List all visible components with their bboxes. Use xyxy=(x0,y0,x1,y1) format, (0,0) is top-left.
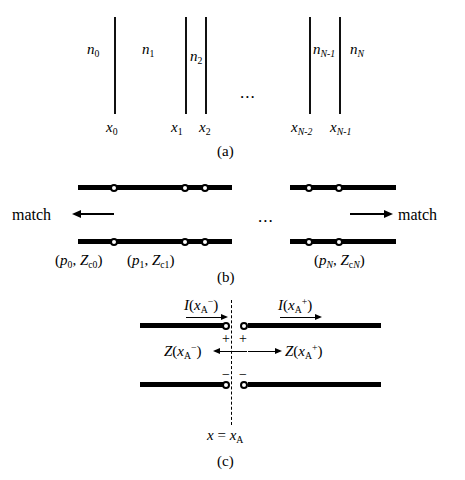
label-current-right: I(xA+) xyxy=(278,298,312,313)
panel-a: n0 n1 n2 nN-1 nN ... x0 x1 x2 xN-2 xN-1 xyxy=(0,0,465,165)
impedance-right-arrowhead xyxy=(275,348,282,354)
current-right-arrowline xyxy=(280,317,318,318)
node-bottom-right-xN-2 xyxy=(305,238,313,246)
interface-line-xN-2 xyxy=(309,17,311,114)
node-bottom-left-x0 xyxy=(110,238,118,246)
label-nN-1: nN-1 xyxy=(313,42,335,57)
panel-c: I(xA−) I(xA+) + + Z(xA−) Z(xA+) − − xyxy=(0,295,465,480)
label-reference-plane: x = xA xyxy=(207,428,243,443)
terminal-node-lower-right xyxy=(240,381,248,389)
conductor-upper-left xyxy=(140,323,225,328)
interface-line-x1 xyxy=(185,17,187,114)
label-nN: nN xyxy=(350,42,364,57)
label-impedance-right: Z(xA+) xyxy=(285,344,323,359)
match-right-arrowline xyxy=(350,213,386,214)
label-x2: x2 xyxy=(199,120,211,135)
match-left-label: match xyxy=(12,207,51,223)
match-right-arrowhead xyxy=(384,210,393,218)
label-n0: n0 xyxy=(87,42,99,57)
node-bottom-left-x2 xyxy=(201,238,209,246)
conductor-lower-right xyxy=(248,382,381,387)
terminal-minus-left: − xyxy=(222,368,230,382)
label-xN-1: xN-1 xyxy=(330,120,351,135)
label-n1: n1 xyxy=(142,42,154,57)
label-impedance-left: Z(xA−) xyxy=(164,344,202,359)
label-x1: x1 xyxy=(171,120,183,135)
terminal-plus-right: + xyxy=(239,332,247,346)
label-p1-zc1: (p1, Zc1) xyxy=(127,253,174,268)
interface-line-x0 xyxy=(114,17,116,114)
panel-b-ellipsis: ... xyxy=(258,207,274,227)
current-right-arrowhead xyxy=(315,314,322,320)
node-top-right-xN-1 xyxy=(335,184,343,192)
panel-b-caption: (b) xyxy=(217,269,235,286)
impedance-left-arrowline xyxy=(219,351,247,352)
node-bottom-left-x1 xyxy=(181,238,189,246)
current-left-arrowhead xyxy=(221,314,228,320)
node-top-right-xN-2 xyxy=(305,184,313,192)
terminal-minus-right: − xyxy=(239,368,247,382)
node-top-left-x2 xyxy=(201,184,209,192)
label-current-left: I(xA−) xyxy=(184,298,218,313)
node-bottom-right-xN-1 xyxy=(335,238,343,246)
label-p0-zc0: (p0, Zc0) xyxy=(55,253,102,268)
terminal-plus-left: + xyxy=(222,332,230,346)
figure-canvas: n0 n1 n2 nN-1 nN ... x0 x1 x2 xN-2 xN-1 xyxy=(0,0,465,480)
label-xN-2: xN-2 xyxy=(291,120,312,135)
terminal-node-lower-left xyxy=(222,381,230,389)
match-right-label: match xyxy=(398,207,437,223)
panel-a-ellipsis: ... xyxy=(240,83,256,103)
panel-c-caption: (c) xyxy=(217,453,234,470)
reference-plane-dashed-line xyxy=(231,300,232,425)
interface-line-x2 xyxy=(205,17,207,114)
impedance-right-arrowline xyxy=(248,351,278,352)
panel-a-caption: (a) xyxy=(217,143,234,160)
label-x0: x0 xyxy=(106,120,118,135)
current-left-arrowline xyxy=(186,317,224,318)
label-n2: n2 xyxy=(190,49,202,64)
panel-b: match match ... (p0, Zc0) (p1, Zc1) (pN,… xyxy=(0,165,465,295)
label-pN-zcN: (pN, ZcN) xyxy=(314,253,365,268)
interface-line-xN-1 xyxy=(339,17,341,114)
conductor-upper-right xyxy=(248,323,381,328)
node-top-left-x0 xyxy=(110,184,118,192)
match-left-arrowline xyxy=(80,213,114,214)
terminal-node-upper-left xyxy=(222,322,230,330)
terminal-node-upper-right xyxy=(240,322,248,330)
conductor-lower-left xyxy=(140,382,225,387)
node-top-left-x1 xyxy=(181,184,189,192)
